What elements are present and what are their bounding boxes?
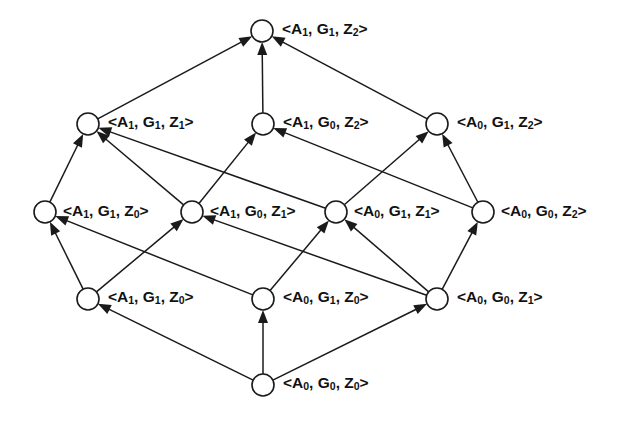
arrowhead-n_A0G1Z0-to-n_A1G1Z0m [55,216,69,225]
arrowhead-n_A0G0Z2-to-n_A1G0Z2 [273,128,287,137]
node-n_A1G1Z0m[interactable] [33,200,57,224]
node-n_A0G0Z2[interactable] [471,200,495,224]
edge-n_A1G1Z0m-to-n_A1G1Z1 [50,144,79,202]
edge-n_A0G0Z0-to-n_A0G0Z1 [273,309,417,380]
edge-n_A1G0Z1-to-n_A1G1Z1 [105,138,184,205]
arrowhead-n_A1G1Z1-to-n_A1G1Z2 [238,36,252,47]
edge-n_A0G1Z0-to-n_A0G1Z1 [270,229,322,291]
node-n_A0G1Z1[interactable] [324,200,348,224]
node-n_A1G0Z2[interactable] [251,112,275,136]
arrowhead-n_A1G1Z0m-to-n_A1G1Z1 [73,134,83,148]
edge-n_A1G1Z0b-to-n_A1G1Z0m [55,232,83,289]
lattice-diagram: <A1, G1, Z2><A1, G1, Z1><A1, G0, Z2><A0,… [0,0,635,422]
node-n_A1G1Z1[interactable] [76,112,100,136]
edge-n_A0G0Z1-to-n_A0G0Z2 [442,231,473,289]
node-n_A0G0Z0[interactable] [251,373,275,397]
node-n_A1G1Z0b[interactable] [76,287,100,311]
arrowhead-n_A0G0Z0-to-n_A0G1Z0 [258,310,268,323]
arrowhead-n_A0G1Z2-to-n_A1G1Z2 [272,36,286,47]
node-n_A0G1Z0[interactable] [251,287,275,311]
edge-n_A0G0Z0-to-n_A1G1Z0b [108,309,253,380]
edge-n_A0G0Z2-to-n_A0G1Z2 [447,144,478,203]
lattice-graph-canvas [0,0,635,422]
arrowhead-n_A0G0Z0-to-n_A1G1Z0b [98,304,112,314]
arrowhead-n_A1G0Z1-to-n_A1G0Z2 [244,133,256,146]
arrowhead-n_A0G0Z1-to-n_A0G0Z2 [467,222,478,236]
arrowhead-n_A0G0Z0-to-n_A0G0Z1 [413,304,427,314]
arrowhead-n_A1G0Z2-to-n_A1G1Z2 [257,42,267,55]
node-n_A1G0Z1[interactable] [180,200,204,224]
edge-n_A0G1Z2-to-n_A1G1Z2 [281,41,427,119]
arrowhead-n_A1G1Z0b-to-n_A1G1Z0m [50,222,60,236]
edge-n_A1G0Z2-to-n_A1G1Z2 [262,53,263,113]
node-n_A0G1Z2[interactable] [425,112,449,136]
edge-n_A1G1Z1-to-n_A1G1Z2 [98,41,243,118]
node-n_A1G1Z2[interactable] [250,19,274,43]
node-layer [34,20,494,396]
node-n_A0G0Z1[interactable] [425,287,449,311]
arrowhead-n_A0G0Z1-to-n_A1G0Z1 [202,215,216,224]
edge-n_A0G1Z0-to-n_A1G1Z0m [65,220,252,295]
arrowhead-n_A0G0Z2-to-n_A0G1Z2 [442,134,452,148]
edge-layer [50,36,478,380]
